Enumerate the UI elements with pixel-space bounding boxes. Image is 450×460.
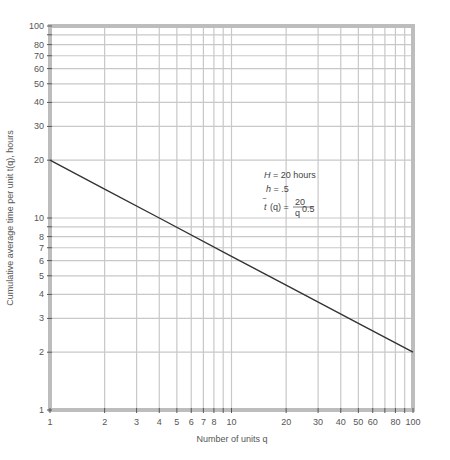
x-tick-label: 1: [47, 417, 52, 427]
x-tick-label: 10: [226, 417, 236, 427]
x-tick-label: 40: [336, 417, 346, 427]
y-axis-title-main: Cumulative average time per unit: [5, 171, 15, 306]
svg-text:(q) =: (q) =: [270, 202, 289, 212]
x-tick-label: 80: [390, 417, 400, 427]
y-tick-label: 7: [39, 243, 44, 253]
y-tick-label: 40: [34, 97, 44, 107]
x-tick-label: 4: [157, 417, 162, 427]
y-tick-label: 6: [39, 256, 44, 266]
x-tick-label: 20: [281, 417, 291, 427]
x-tick-label: 30: [313, 417, 323, 427]
x-tick-label: 6: [189, 417, 194, 427]
svg-text:t: t: [264, 202, 267, 212]
svg-text:0.5: 0.5: [302, 204, 315, 214]
y-tick-label: 50: [34, 79, 44, 89]
svg-text:Cumulative average time per un: Cumulative average time per unit t(q), h…: [5, 130, 15, 306]
annotation-h: h = .5: [266, 184, 289, 194]
y-tick-label: 4: [39, 289, 44, 299]
y-tick-label: 8: [39, 232, 44, 242]
y-tick-label: 60: [34, 64, 44, 74]
y-tick-label: 1: [39, 405, 44, 415]
y-tick-label: 5: [39, 271, 44, 281]
x-tick-label: 8: [211, 417, 216, 427]
annotation-equation: ‾ t (q) = 20 q 0.5: [262, 197, 315, 218]
y-tick-label: 70: [34, 51, 44, 61]
y-axis-title-tail: (q), hours: [5, 130, 15, 169]
x-tick-label: 2: [102, 417, 107, 427]
learning-curve-chart: 123456781020304050607080100 123456781020…: [0, 0, 450, 460]
y-tick-label: 100: [29, 21, 44, 31]
y-tick-label: 20: [34, 155, 44, 165]
x-tick-label: 100: [405, 417, 420, 427]
y-axis-title: Cumulative average time per unit t(q), h…: [5, 130, 15, 306]
grid-lines: [50, 26, 413, 410]
y-tick-label: 2: [39, 347, 44, 357]
y-tick-label: 30: [34, 121, 44, 131]
x-tick-label: 50: [353, 417, 363, 427]
annotation-H: H = 20 hours: [264, 170, 316, 180]
svg-text:q: q: [295, 208, 300, 218]
x-tick-label: 5: [174, 417, 179, 427]
x-tick-label: 7: [201, 417, 206, 427]
y-tick-label: 10: [34, 213, 44, 223]
x-axis-title: Number of units q: [196, 434, 267, 444]
x-tick-label: 60: [368, 417, 378, 427]
y-tick-label: 80: [34, 40, 44, 50]
y-tick-label: 3: [39, 313, 44, 323]
formula-annotation: H = 20 hours h = .5 ‾ t (q) = 20 q 0.5: [262, 170, 316, 218]
x-tick-label: 3: [134, 417, 139, 427]
